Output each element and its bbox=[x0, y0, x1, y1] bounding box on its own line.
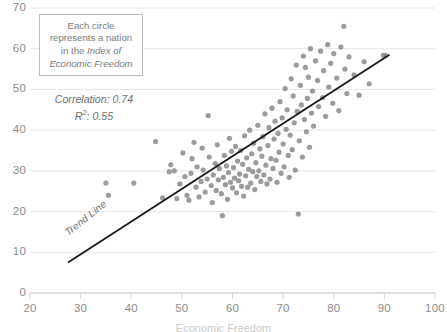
data-point bbox=[180, 150, 185, 155]
data-point bbox=[286, 153, 291, 158]
data-point bbox=[269, 106, 274, 111]
data-point bbox=[356, 93, 361, 98]
x-axis-tick-label: 80 bbox=[319, 302, 349, 314]
data-point bbox=[272, 119, 277, 124]
data-point bbox=[237, 172, 242, 177]
data-point bbox=[241, 194, 246, 199]
data-point bbox=[249, 151, 254, 156]
data-point bbox=[292, 120, 297, 125]
data-point bbox=[103, 180, 108, 185]
r-squared-suffix: : 0.55 bbox=[87, 110, 114, 122]
data-point bbox=[247, 128, 252, 133]
data-point bbox=[289, 76, 294, 81]
data-point bbox=[205, 176, 210, 181]
callout-text: Each circle represents a nation in the I… bbox=[45, 20, 136, 70]
correlation-label: Correlation: 0.74 bbox=[40, 92, 148, 106]
data-point bbox=[346, 54, 351, 59]
data-point bbox=[297, 138, 302, 143]
data-point bbox=[226, 170, 231, 175]
data-point bbox=[214, 188, 219, 193]
y-axis-tick-label: 50 bbox=[0, 82, 26, 94]
x-axis-tick-label: 50 bbox=[167, 302, 197, 314]
x-axis-tick-label: 60 bbox=[218, 302, 248, 314]
data-point bbox=[328, 61, 333, 66]
data-point bbox=[253, 160, 258, 165]
data-point bbox=[257, 146, 262, 151]
data-point bbox=[298, 83, 303, 88]
data-point bbox=[177, 181, 182, 186]
data-point bbox=[299, 102, 304, 107]
data-point bbox=[167, 169, 172, 174]
data-point bbox=[230, 185, 235, 190]
data-point bbox=[287, 175, 292, 180]
data-point bbox=[236, 178, 241, 183]
data-point bbox=[255, 123, 260, 128]
y-axis-tick-label: 60 bbox=[0, 42, 26, 54]
data-point bbox=[294, 62, 299, 67]
x-axis-tick-label: 90 bbox=[369, 302, 399, 314]
data-point bbox=[222, 153, 227, 158]
data-point bbox=[131, 180, 136, 185]
trend-line bbox=[68, 55, 389, 263]
callout-box: Each circle represents a nation in the I… bbox=[39, 14, 143, 76]
data-point bbox=[106, 193, 111, 198]
data-point bbox=[315, 78, 320, 83]
r-squared-label: R2: 0.55 bbox=[40, 106, 148, 123]
data-point bbox=[231, 165, 236, 170]
data-point bbox=[306, 75, 311, 80]
data-point bbox=[191, 140, 196, 145]
data-point bbox=[194, 164, 199, 169]
data-point bbox=[275, 131, 280, 136]
x-axis-tick-label: 30 bbox=[66, 302, 96, 314]
data-point bbox=[293, 167, 298, 172]
data-point bbox=[301, 53, 306, 58]
x-axis-tick-label: 40 bbox=[116, 302, 146, 314]
data-point bbox=[268, 156, 273, 161]
data-point bbox=[219, 191, 224, 196]
data-point bbox=[223, 182, 228, 187]
data-point bbox=[276, 150, 281, 155]
data-point bbox=[309, 110, 314, 115]
data-point bbox=[291, 93, 296, 98]
data-point bbox=[235, 158, 240, 163]
callout-line-3-italic: Index of bbox=[87, 45, 121, 56]
y-axis-tick-label: 70 bbox=[0, 1, 26, 13]
statistics-annotation: Correlation: 0.74 R2: 0.55 bbox=[40, 92, 148, 123]
data-point bbox=[283, 86, 288, 91]
data-point bbox=[331, 51, 336, 56]
callout-line-3-plain: in the bbox=[61, 45, 87, 56]
data-point bbox=[304, 129, 309, 134]
data-point bbox=[240, 162, 245, 167]
data-point bbox=[225, 197, 230, 202]
data-point bbox=[334, 75, 339, 80]
data-point bbox=[311, 123, 316, 128]
x-axis-tick-label: 70 bbox=[268, 302, 298, 314]
data-point bbox=[248, 180, 253, 185]
data-point bbox=[325, 42, 330, 47]
r-squared-prefix: R bbox=[75, 110, 83, 122]
data-point bbox=[342, 66, 347, 71]
data-point bbox=[199, 179, 204, 184]
data-point bbox=[282, 164, 287, 169]
data-point bbox=[281, 141, 286, 146]
x-axis-title: Economic Freedom bbox=[0, 322, 447, 332]
data-point bbox=[244, 155, 249, 160]
data-point bbox=[228, 180, 233, 185]
data-point bbox=[216, 177, 221, 182]
data-point bbox=[308, 46, 313, 51]
data-point bbox=[267, 176, 272, 181]
data-point bbox=[303, 65, 308, 70]
callout-line-1: Each circle bbox=[68, 20, 115, 31]
data-point bbox=[316, 104, 321, 109]
data-point bbox=[227, 136, 232, 141]
data-point bbox=[206, 113, 211, 118]
data-point bbox=[250, 169, 255, 174]
data-point bbox=[330, 101, 335, 106]
data-point bbox=[254, 174, 259, 179]
data-point bbox=[174, 196, 179, 201]
y-axis-tick-label: 10 bbox=[0, 245, 26, 257]
data-point bbox=[261, 172, 266, 177]
data-point bbox=[367, 81, 372, 86]
data-point bbox=[280, 115, 285, 120]
data-point bbox=[271, 137, 276, 142]
